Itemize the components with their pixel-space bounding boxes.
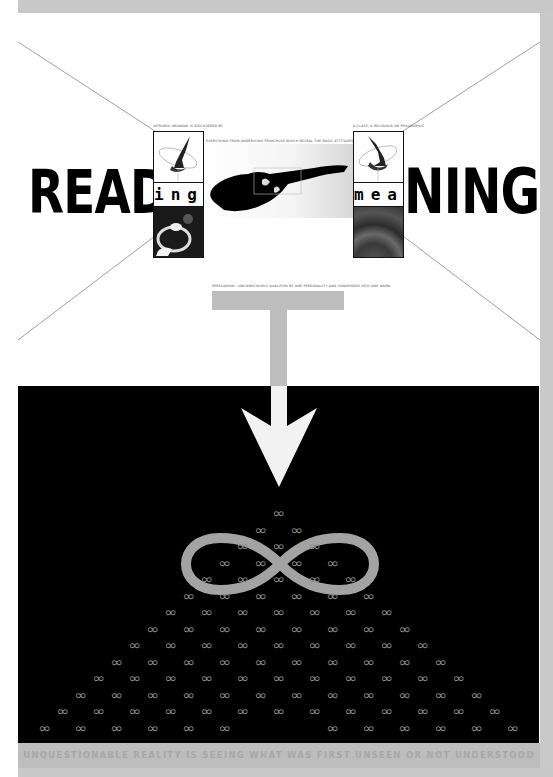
small-infinity-icon: ∞ (201, 704, 214, 718)
small-infinity-icon: ∞ (255, 622, 268, 636)
small-infinity-icon: ∞ (291, 523, 304, 537)
small-infinity-icon: ∞ (273, 704, 286, 718)
small-infinity-icon: ∞ (255, 688, 268, 702)
small-infinity-icon: ∞ (399, 688, 412, 702)
small-infinity-icon: ∞ (57, 704, 70, 718)
small-infinity-icon: ∞ (201, 605, 214, 619)
small-infinity-icon: ∞ (489, 704, 502, 718)
small-infinity-icon: ∞ (327, 622, 340, 636)
small-infinity-icon: ∞ (291, 622, 304, 636)
small-infinity-icon: ∞ (273, 605, 286, 619)
small-infinity-icon: ∞ (219, 589, 232, 603)
small-infinity-icon: ∞ (93, 704, 106, 718)
small-infinity-icon: ∞ (363, 655, 376, 669)
small-infinity-icon: ∞ (363, 622, 376, 636)
small-infinity-icon: ∞ (399, 655, 412, 669)
small-infinity-icon: ∞ (381, 704, 394, 718)
small-infinity-icon: ∞ (255, 589, 268, 603)
small-infinity-icon: ∞ (129, 638, 142, 652)
small-infinity-icon: ∞ (237, 638, 250, 652)
small-infinity-icon: ∞ (291, 688, 304, 702)
small-infinity-icon: ∞ (255, 523, 268, 537)
small-infinity-icon: ∞ (183, 655, 196, 669)
small-infinity-icon: ∞ (309, 671, 322, 685)
small-infinity-icon: ∞ (111, 721, 124, 735)
small-infinity-icon: ∞ (255, 655, 268, 669)
small-infinity-icon: ∞ (345, 704, 358, 718)
small-infinity-icon: ∞ (507, 721, 520, 735)
small-infinity-icon: ∞ (381, 671, 394, 685)
small-infinity-icon: ∞ (183, 688, 196, 702)
small-infinity-icon: ∞ (219, 556, 232, 570)
small-infinity-icon: ∞ (111, 655, 124, 669)
small-infinity-icon: ∞ (291, 655, 304, 669)
small-infinity-icon: ∞ (453, 704, 466, 718)
frame-bottom-bar (18, 768, 553, 777)
small-infinity-icon: ∞ (147, 721, 160, 735)
small-infinity-icon: ∞ (435, 721, 448, 735)
small-infinity-icon: ∞ (309, 704, 322, 718)
small-infinity-icon: ∞ (453, 671, 466, 685)
small-infinity-icon: ∞ (363, 589, 376, 603)
small-infinity-icon: ∞ (345, 671, 358, 685)
small-infinity-icon: ∞ (165, 605, 178, 619)
small-infinity-icon: ∞ (273, 638, 286, 652)
small-infinity-icon: ∞ (291, 556, 304, 570)
small-infinity-icon: ∞ (147, 622, 160, 636)
small-infinity-icon: ∞ (399, 622, 412, 636)
small-infinity-icon: ∞ (237, 671, 250, 685)
small-infinity-icon: ∞ (75, 688, 88, 702)
small-infinity-icon: ∞ (309, 605, 322, 619)
small-infinity-icon: ∞ (219, 688, 232, 702)
small-infinity-icon: ∞ (201, 638, 214, 652)
small-infinity-icon: ∞ (237, 539, 250, 553)
small-infinity-icon: ∞ (435, 688, 448, 702)
small-infinity-icon: ∞ (327, 688, 340, 702)
small-infinity-icon: ∞ (309, 638, 322, 652)
small-infinity-icon: ∞ (165, 704, 178, 718)
small-infinity-icon: ∞ (273, 506, 286, 520)
small-infinity-icon: ∞ (93, 671, 106, 685)
small-infinity-icon: ∞ (129, 671, 142, 685)
small-infinity-icon: ∞ (165, 671, 178, 685)
small-infinity-icon: ∞ (147, 688, 160, 702)
small-infinity-icon: ∞ (201, 572, 214, 586)
small-infinity-icon: ∞ (417, 638, 430, 652)
small-infinity-icon: ∞ (345, 605, 358, 619)
small-infinity-icon: ∞ (381, 638, 394, 652)
small-infinity-icon: ∞ (381, 605, 394, 619)
tagline-strip: UNQUESTIONABLE REALITY IS SEEING WHAT WA… (18, 743, 540, 768)
small-infinity-icon: ∞ (219, 622, 232, 636)
small-infinity-icon: ∞ (273, 539, 286, 553)
small-infinity-icon: ∞ (363, 721, 376, 735)
small-infinity-icon: ∞ (129, 704, 142, 718)
small-infinity-icon: ∞ (111, 688, 124, 702)
small-infinity-icon: ∞ (183, 589, 196, 603)
small-infinity-icon: ∞ (237, 704, 250, 718)
small-infinity-icon: ∞ (345, 572, 358, 586)
small-infinity-icon: ∞ (327, 589, 340, 603)
small-infinity-icon: ∞ (417, 704, 430, 718)
small-infinity-icon: ∞ (219, 655, 232, 669)
small-infinity-icon: ∞ (75, 721, 88, 735)
small-infinity-icon: ∞ (39, 721, 52, 735)
small-infinity-icon: ∞ (309, 539, 322, 553)
small-infinity-icon: ∞ (237, 605, 250, 619)
small-infinity-icon: ∞ (417, 671, 430, 685)
small-infinity-icon: ∞ (183, 622, 196, 636)
small-infinity-icon: ∞ (273, 671, 286, 685)
small-infinity-icon: ∞ (435, 655, 448, 669)
small-infinity-icon: ∞ (219, 721, 232, 735)
small-infinity-icon: ∞ (471, 721, 484, 735)
small-infinity-icon: ∞ (309, 572, 322, 586)
small-infinity-icon: ∞ (183, 721, 196, 735)
small-infinity-icon: ∞ (201, 671, 214, 685)
small-infinity-icon: ∞ (165, 638, 178, 652)
small-infinity-icon: ∞ (327, 556, 340, 570)
tagline: UNQUESTIONABLE REALITY IS SEEING WHAT WA… (18, 743, 540, 768)
small-infinity-icon: ∞ (327, 655, 340, 669)
small-infinity-icon: ∞ (273, 572, 286, 586)
small-infinity-icon: ∞ (291, 589, 304, 603)
small-infinity-icon: ∞ (255, 556, 268, 570)
small-infinity-icon: ∞ (399, 721, 412, 735)
